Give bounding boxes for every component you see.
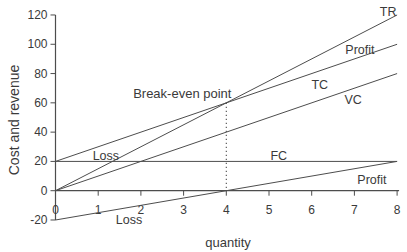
y-tick-label: 20 [34,154,48,168]
line-label-profit: Profit [357,173,387,187]
break-even-annotation: Break-even point [133,86,232,101]
chart-background [0,0,407,252]
y-tick-label: 0 [41,184,48,198]
x-tick-label: 6 [308,203,315,217]
x-tick-label: 8 [394,203,401,217]
x-tick-label: 7 [351,203,358,217]
x-tick-label: 1 [95,203,102,217]
line-label-tc: TC [311,78,328,92]
chart-canvas: 120100806040200-20012345678TRProfitTCVCF… [0,0,407,252]
y-tick-label: 120 [27,8,47,22]
break-even-chart: 120100806040200-20012345678TRProfitTCVCF… [0,0,407,252]
x-axis-title: quantity [205,235,251,250]
x-tick-label: 3 [180,203,187,217]
x-tick-label: 4 [223,203,230,217]
y-tick-label: -20 [30,213,48,227]
line-label-loss: Loss [93,149,119,163]
line-label-fc: FC [270,149,287,163]
line-label-loss: Loss [116,213,142,227]
line-label-vc: VC [344,93,361,107]
y-tick-label: 60 [34,96,48,110]
y-axis-title: Cost and revenue [6,65,22,176]
line-label-tr: TR [380,5,397,19]
x-tick-label: 0 [52,203,59,217]
line-label-profit: Profit [345,43,375,57]
x-tick-label: 5 [266,203,273,217]
y-tick-label: 100 [27,37,47,51]
y-tick-label: 80 [34,67,48,81]
y-tick-label: 40 [34,125,48,139]
